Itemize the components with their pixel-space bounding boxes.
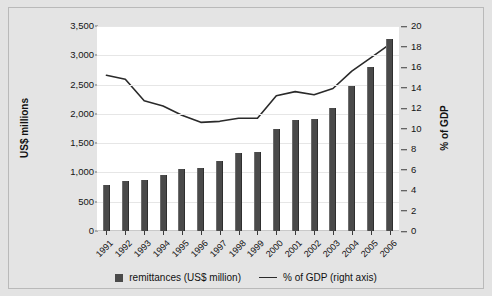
legend-bar-swatch-icon (115, 274, 123, 282)
bar-2001 (292, 120, 299, 231)
y-tick-label-left: 0 (42, 226, 94, 236)
bar-1994 (160, 175, 167, 231)
y-tick-mark-right (401, 88, 407, 89)
bar-1992 (122, 181, 129, 231)
x-tick-mark (239, 231, 240, 235)
legend-item-gdp-percent: % of GDP (right axis) (259, 272, 377, 283)
y-tick-label-right: 6 (411, 165, 416, 175)
bar-1997 (216, 161, 223, 231)
x-tick-mark (106, 231, 107, 235)
y-tick-label-right: 10 (411, 124, 422, 134)
legend-label-remittances: remittances (US$ million) (129, 272, 241, 283)
bar-1995 (178, 169, 185, 231)
x-tick-mark (295, 231, 296, 235)
x-tick-mark (333, 231, 334, 235)
legend-label-gdp-percent: % of GDP (right axis) (283, 272, 377, 283)
y-tick-mark-right (401, 26, 407, 27)
y-tick-label-left: 1,000 (42, 168, 94, 178)
y-tick-label-left: 1,500 (42, 138, 94, 148)
y-tick-label-left: 3,500 (42, 21, 94, 31)
y-tick-mark-right (401, 211, 407, 212)
bar-1998 (235, 153, 242, 231)
bar-1993 (141, 180, 148, 231)
x-tick-mark (257, 231, 258, 235)
y-tick-label-right: 12 (411, 103, 422, 113)
chart-legend: remittances (US$ million) % of GDP (righ… (0, 272, 492, 283)
y-tick-label-right: 0 (411, 226, 416, 236)
x-tick-mark (314, 231, 315, 235)
y-axis-title-left: US$ millions (19, 98, 30, 158)
y-tick-mark-right (401, 108, 407, 109)
y-tick-mark-right (401, 47, 407, 48)
chart-figure: US$ millions 3,5003,0002,5002,0001,5001,… (0, 0, 492, 296)
x-axis: 1991199219931994199519961997199819992000… (97, 231, 399, 271)
y-tick-label-right: 14 (411, 83, 422, 93)
y-tick-label-left: 500 (42, 197, 94, 207)
bar-2006 (386, 39, 393, 231)
bar-2000 (273, 129, 280, 232)
y-tick-mark-right (401, 170, 407, 171)
y-tick-label-left: 2,000 (42, 109, 94, 119)
bar-1996 (197, 168, 204, 231)
y-tick-mark-right (401, 231, 407, 232)
bar-1991 (103, 185, 110, 231)
x-tick-mark (163, 231, 164, 235)
bar-1999 (254, 152, 261, 231)
y-tick-label-right: 20 (411, 21, 422, 31)
y-tick-label-right: 16 (411, 62, 422, 72)
x-tick-mark (390, 231, 391, 235)
y-tick-label-right: 2 (411, 206, 416, 216)
gridline (97, 55, 399, 56)
x-tick-mark (182, 231, 183, 235)
x-tick-mark (220, 231, 221, 235)
y-tick-label-left: 3,000 (42, 51, 94, 61)
plot-area (97, 26, 399, 231)
x-tick-mark (201, 231, 202, 235)
y-tick-label-left: 2,500 (42, 80, 94, 90)
y-tick-label-right: 4 (411, 185, 416, 195)
x-tick-mark (352, 231, 353, 235)
legend-item-remittances: remittances (US$ million) (115, 272, 241, 283)
y-axis-left: 3,5003,0002,5002,0001,5001,0005000 (36, 26, 94, 231)
y-tick-label-right: 8 (411, 144, 416, 154)
y-tick-label-right: 18 (411, 42, 422, 52)
x-tick-mark (371, 231, 372, 235)
y-tick-mark-right (401, 190, 407, 191)
bar-2005 (367, 67, 374, 231)
bar-2004 (348, 86, 355, 231)
gridline (97, 26, 399, 27)
legend-line-swatch-icon (259, 277, 277, 278)
bar-2003 (329, 108, 336, 231)
y-axis-title-right: % of GDP (439, 105, 450, 151)
y-tick-mark-right (401, 67, 407, 68)
x-tick-mark (144, 231, 145, 235)
x-tick-mark (125, 231, 126, 235)
y-tick-mark-right (401, 129, 407, 130)
bar-2002 (311, 119, 318, 231)
x-tick-mark (276, 231, 277, 235)
y-tick-mark-right (401, 149, 407, 150)
